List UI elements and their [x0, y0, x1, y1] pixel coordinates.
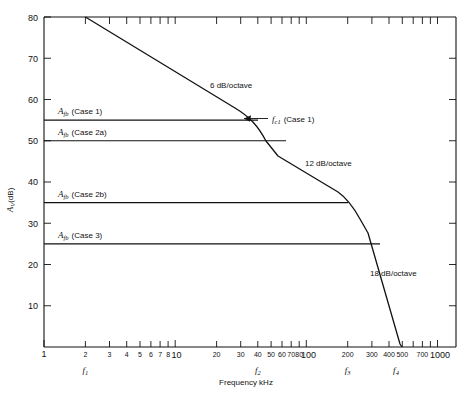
- x-tick-8: 8: [166, 351, 170, 358]
- y-tick-80: 80: [28, 13, 38, 23]
- slope-label-18db: 18 dB/octave: [370, 269, 417, 278]
- y-axis-title: AV(dB): [5, 187, 16, 213]
- x-tick-100: 100: [301, 350, 316, 360]
- x-tick-30: 30: [237, 351, 245, 358]
- x-tick-50: 50: [267, 351, 275, 358]
- x-axis-title: Frequency kHz: [219, 378, 273, 387]
- x-tick-1000: 1000: [430, 350, 450, 360]
- y-tick-40: 40: [28, 177, 38, 187]
- svg-text:AV(dB): AV(dB): [5, 187, 16, 213]
- y-tick-70: 70: [28, 54, 38, 64]
- x-tick-200: 200: [342, 351, 354, 358]
- x-tick-3: 3: [108, 351, 112, 358]
- y-tick-60: 60: [28, 95, 38, 105]
- plot-background: [0, 0, 473, 398]
- y-tick-50: 50: [28, 136, 38, 146]
- x-tick-400: 400: [383, 351, 395, 358]
- slope-label-12db: 12 dB/octave: [305, 159, 352, 168]
- x-tick-10: 10: [171, 350, 181, 360]
- x-tick-7: 7: [158, 351, 162, 358]
- x-tick-1: 1: [41, 349, 46, 359]
- x-tick-4: 4: [125, 351, 129, 358]
- x-tick-5: 5: [138, 351, 142, 358]
- x-tick-500: 500: [396, 351, 408, 358]
- x-tick-40: 40: [254, 351, 262, 358]
- x-tick-70: 70: [287, 351, 295, 358]
- x-tick-6: 6: [149, 351, 153, 358]
- y-axis-title-unit: (dB): [6, 187, 15, 202]
- slope-label-6db: 6 dB/octave: [210, 81, 253, 90]
- chart-root: 10 20 30 40 50 60 70 80 AV(dB) 1 2 3 4 5…: [0, 0, 473, 398]
- x-tick-20: 20: [213, 351, 221, 358]
- x-tick-300: 300: [366, 351, 378, 358]
- x-tick-60: 60: [278, 351, 286, 358]
- y-tick-20: 20: [28, 260, 38, 270]
- x-tick-700: 700: [417, 351, 429, 358]
- y-tick-10: 10: [28, 301, 38, 311]
- gain-frequency-plot: 10 20 30 40 50 60 70 80 AV(dB) 1 2 3 4 5…: [0, 0, 473, 398]
- x-tick-2: 2: [83, 351, 87, 358]
- y-tick-30: 30: [28, 219, 38, 229]
